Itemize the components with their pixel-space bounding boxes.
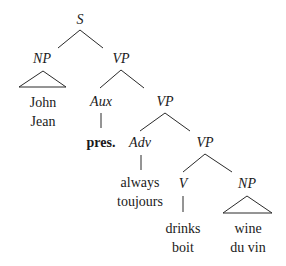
edge-vp1-aux	[100, 70, 121, 88]
edge-vp1-vp2	[121, 70, 144, 88]
leaf-wine: wine	[234, 221, 261, 236]
edge-vp2-adv	[140, 113, 165, 131]
node-np-object: NP	[237, 176, 256, 191]
leaf-always: always	[121, 175, 160, 190]
edge-s-np	[58, 30, 80, 48]
edge-vp3-v	[183, 154, 205, 172]
node-aux: Aux	[89, 94, 113, 109]
triangle-np-object	[223, 196, 272, 213]
syntax-tree: S NP John Jean VP Aux pres. VP Adv alway…	[0, 0, 286, 266]
node-vp-2: VP	[156, 94, 174, 109]
leaf-drinks: drinks	[166, 221, 201, 236]
triangle-np-subject	[19, 71, 66, 87]
node-vp-1: VP	[112, 51, 130, 66]
edge-s-vp	[80, 30, 103, 48]
leaf-john: John	[30, 95, 56, 110]
edge-vp2-vp3	[165, 113, 190, 131]
node-vp-3: VP	[196, 135, 214, 150]
node-v: V	[179, 176, 189, 191]
leaf-du-vin: du vin	[230, 240, 265, 255]
edge-vp3-np	[205, 154, 232, 172]
leaf-jean: Jean	[31, 114, 56, 129]
leaf-pres: pres.	[87, 135, 116, 150]
leaf-toujours: toujours	[117, 194, 163, 209]
node-np-subject: NP	[32, 51, 51, 66]
leaf-boit: boit	[172, 240, 194, 255]
node-adv: Adv	[128, 135, 152, 150]
node-s: S	[77, 12, 84, 27]
